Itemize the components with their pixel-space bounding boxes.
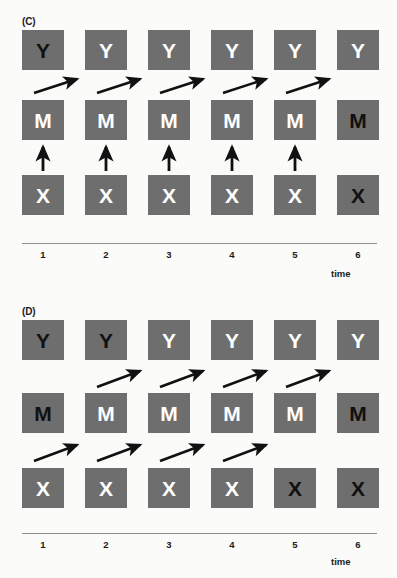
arrow-d-x3-to-m4 [160,445,203,461]
node-c-y-2: Y [85,30,127,70]
node-c-m-4: M [211,100,253,140]
panel-c-label: (C) [22,16,35,27]
node-c-x-4: X [211,175,253,215]
arrow-d-x4-to-m5 [223,445,266,461]
panel-c-time-axis-line [22,243,377,244]
panel-d-tick-1: 1 [33,539,53,550]
arrow-d-x2-to-m3 [97,445,140,461]
node-c-m-2: M [85,100,127,140]
arrow-c-m2-to-y3 [97,79,140,93]
node-c-m-5: M [274,100,316,140]
arrow-d-m2-to-y3 [97,371,140,387]
panel-d-tick-5: 5 [285,539,305,550]
node-d-m-4: M [211,393,253,433]
node-c-x-1: X [22,175,64,215]
arrow-c-m3-to-y4 [160,79,203,93]
node-c-x-3: X [148,175,190,215]
node-d-y-3: Y [148,320,190,360]
node-c-y-6: Y [337,30,379,70]
node-d-y-6: Y [337,320,379,360]
panel-d: (D) Y Y Y Y Y Y M M M M M M X X X X X X [0,290,397,578]
panel-d-time-axis-line [22,533,377,534]
panel-c-tick-1: 1 [33,249,53,260]
arrow-c-m4-to-y5 [223,79,266,93]
node-d-x-3: X [148,468,190,508]
panel-c-tick-6: 6 [348,249,368,260]
node-c-m-6: M [337,100,379,140]
node-c-y-3: Y [148,30,190,70]
node-c-x-6: X [337,175,379,215]
node-d-y-4: Y [211,320,253,360]
panel-d-tick-6: 6 [348,539,368,550]
panel-d-tick-2: 2 [96,539,116,550]
arrow-d-m5-to-y6 [286,371,329,387]
node-c-m-3: M [148,100,190,140]
arrow-d-m4-to-y5 [223,371,266,387]
panel-d-tick-3: 3 [159,539,179,550]
node-d-y-2: Y [85,320,127,360]
node-d-m-5: M [274,393,316,433]
node-c-y-5: Y [274,30,316,70]
node-d-x-2: X [85,468,127,508]
panel-d-tick-4: 4 [222,539,242,550]
panel-d-label: (D) [22,306,35,317]
panel-c-tick-4: 4 [222,249,242,260]
node-d-y-1: Y [22,320,64,360]
node-d-m-6: M [337,393,379,433]
arrow-d-m3-to-y4 [160,371,203,387]
panel-c: (C) Y Y Y Y Y Y M M M M M M X X X X X X [0,0,397,290]
node-c-x-5: X [274,175,316,215]
node-c-y-1: Y [22,30,64,70]
arrow-c-m5-to-y6 [286,79,329,93]
node-d-x-1: X [22,468,64,508]
arrow-d-x1-to-m2 [34,445,77,461]
node-d-m-1: M [22,393,64,433]
node-d-m-2: M [85,393,127,433]
panel-c-tick-5: 5 [285,249,305,260]
node-d-x-6: X [337,468,379,508]
node-d-m-3: M [148,393,190,433]
node-d-x-5: X [274,468,316,508]
node-d-x-4: X [211,468,253,508]
figure-canvas: (C) Y Y Y Y Y Y M M M M M M X X X X X X [0,0,397,578]
arrow-c-m1-to-y2 [34,79,77,93]
node-d-y-5: Y [274,320,316,360]
panel-c-axis-title: time [331,268,351,279]
panel-d-axis-title: time [331,556,351,567]
panel-c-tick-2: 2 [96,249,116,260]
node-c-x-2: X [85,175,127,215]
node-c-y-4: Y [211,30,253,70]
panel-c-tick-3: 3 [159,249,179,260]
node-c-m-1: M [22,100,64,140]
